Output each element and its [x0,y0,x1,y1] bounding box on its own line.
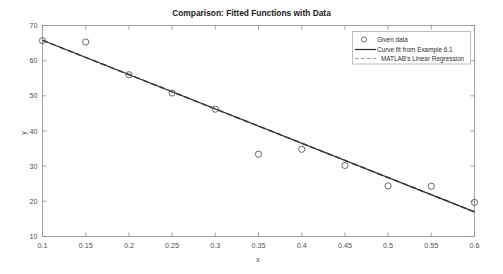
x-tick-label: 0.2 [124,241,134,250]
data-point [299,146,305,152]
legend-label-linear-regression: MATLAB's Linear Regression [381,55,465,63]
x-tick-label: 0.6 [470,241,480,250]
x-tick-label: 0.45 [338,241,352,250]
x-tick-label: 0.5 [383,241,393,250]
x-tick-label: 0.1 [38,241,48,250]
figure-canvas: Comparison: Fitted Functions with Data 0… [0,0,503,274]
data-point [83,39,89,45]
curve-fit-line [43,40,475,212]
x-tick-label: 0.25 [165,241,179,250]
x-tick-labels: 0.10.150.20.250.30.350.40.450.50.550.6 [38,241,480,250]
y-tick-labels: 10203040506070 [30,21,38,241]
y-tick-label: 10 [30,232,38,241]
legend-label-given-data: Given data [377,36,408,43]
x-tick-label: 0.35 [252,241,266,250]
data-point [428,183,434,189]
legend: Given data Curve fit from Example 6.1 MA… [353,32,471,65]
x-tick-label: 0.3 [210,241,220,250]
x-tick-label: 0.55 [424,241,438,250]
x-tick-label: 0.15 [79,241,93,250]
y-tick-label: 40 [30,127,38,136]
x-axis-label: x [256,255,260,264]
y-tick-label: 70 [30,21,38,30]
plot-area: Comparison: Fitted Functions with Data 0… [0,0,503,274]
page-title: Comparison: Fitted Functions with Data [172,8,331,18]
legend-label-curve-fit: Curve fit from Example 6.1 [377,46,453,54]
data-point [385,183,391,189]
y-tick-label: 50 [30,91,38,100]
x-tick-label: 0.4 [297,241,307,250]
y-tick-label: 60 [30,56,38,65]
y-tick-label: 30 [30,162,38,171]
y-tick-label: 20 [30,197,38,206]
data-point [342,162,348,168]
data-point [255,151,261,157]
y-axis-label: y [19,131,28,135]
